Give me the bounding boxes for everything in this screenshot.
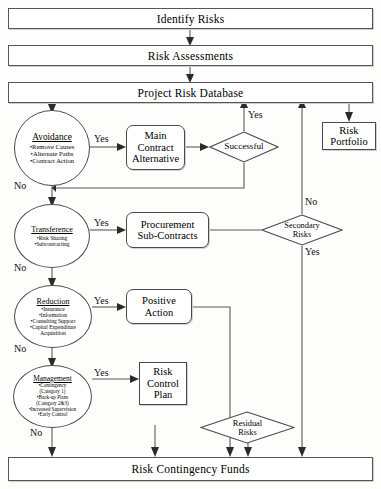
flowchart-canvas: Identify Risks Risk Assessments Project … bbox=[0, 0, 381, 489]
avoidance-bullet-3: •Contract Action bbox=[30, 157, 74, 164]
avoidance-yes-label: Yes bbox=[94, 134, 109, 144]
decision-residual-risks[interactable]: Residual Risks bbox=[200, 411, 295, 444]
transference-bullet-2: •Subcontracting bbox=[34, 241, 69, 247]
residual-risks-line-1: Residual bbox=[233, 419, 262, 428]
reduction-no-label: No bbox=[14, 344, 26, 354]
successful-label: Successful bbox=[224, 142, 263, 152]
secondary-risks-yes-label: Yes bbox=[305, 247, 320, 257]
residual-risks-label: Residual Risks bbox=[233, 419, 262, 437]
reduction-yes-label: Yes bbox=[94, 296, 109, 306]
identify-risks-label: Identify Risks bbox=[157, 13, 225, 25]
residual-risks-line-2: Risks bbox=[233, 428, 262, 437]
node-identify-risks[interactable]: Identify Risks bbox=[8, 8, 373, 29]
avoidance-no-label: No bbox=[14, 181, 26, 191]
transference-no-label: No bbox=[14, 263, 26, 273]
risk-assessments-label: Risk Assessments bbox=[148, 50, 233, 62]
decision-successful[interactable]: Successful bbox=[209, 131, 279, 163]
node-main-contract-alternative[interactable]: Main Contract Alternative bbox=[126, 125, 185, 170]
avoidance-bullet-2: •Alternate Paths bbox=[31, 150, 74, 157]
risk-control-plan-line-1: Risk bbox=[153, 366, 172, 378]
risk-portfolio-line-2: Portfolio bbox=[330, 136, 367, 148]
secondary-risks-no-label: No bbox=[305, 197, 317, 207]
secondary-risks-line-2: Risks bbox=[284, 230, 319, 239]
procurement-line-2: Sub-Contracts bbox=[137, 230, 197, 242]
project-risk-database-label: Project Risk Database bbox=[138, 87, 244, 99]
node-risk-control-plan[interactable]: Risk Control Plan bbox=[139, 362, 187, 405]
management-yes-label: Yes bbox=[94, 368, 109, 378]
management-bullet-6: •Early Control bbox=[38, 412, 68, 418]
secondary-risks-label: Secondary Risks bbox=[284, 221, 319, 239]
node-procurement-sub-contracts[interactable]: Procurement Sub-Contracts bbox=[126, 212, 209, 248]
risk-control-plan-line-2: Control bbox=[147, 378, 179, 390]
transference-heading: Transference bbox=[31, 225, 72, 234]
secondary-risks-line-1: Secondary bbox=[284, 221, 319, 230]
positive-action-line-2: Action bbox=[145, 307, 174, 319]
transference-yes-label: Yes bbox=[94, 218, 109, 228]
node-transference[interactable]: Transference •Risk Sharing •Subcontracti… bbox=[14, 204, 90, 268]
main-contract-alternative-line-2: Contract bbox=[137, 142, 173, 154]
reduction-bullet-5: Acquisition bbox=[40, 330, 66, 336]
reduction-heading: Reduction bbox=[37, 297, 70, 306]
successful-yes-label: Yes bbox=[248, 110, 263, 120]
risk-control-plan-line-3: Plan bbox=[154, 389, 173, 401]
procurement-line-1: Procurement bbox=[141, 219, 195, 231]
node-avoidance[interactable]: Avoidance •Remove Causes •Alternate Path… bbox=[14, 110, 90, 186]
decision-secondary-risks[interactable]: Secondary Risks bbox=[261, 214, 343, 246]
positive-action-line-1: Positive bbox=[142, 295, 176, 307]
main-contract-alternative-line-3: Alternative bbox=[132, 153, 179, 165]
node-project-risk-database[interactable]: Project Risk Database bbox=[8, 82, 373, 103]
node-management[interactable]: Management •Contingency (Category 1) •Ba… bbox=[13, 365, 92, 428]
risk-portfolio-line-1: Risk bbox=[339, 125, 358, 137]
avoidance-bullet-1: •Remove Causes bbox=[30, 143, 75, 150]
node-positive-action[interactable]: Positive Action bbox=[126, 289, 192, 324]
node-risk-assessments[interactable]: Risk Assessments bbox=[8, 45, 373, 66]
avoidance-heading: Avoidance bbox=[32, 132, 72, 142]
node-risk-contingency-funds[interactable]: Risk Contingency Funds bbox=[8, 457, 373, 481]
main-contract-alternative-line-1: Main bbox=[144, 130, 166, 142]
management-no-label: No bbox=[30, 428, 42, 438]
node-reduction[interactable]: Reduction •Insurance •Information •Consu… bbox=[14, 285, 92, 348]
risk-contingency-funds-label: Risk Contingency Funds bbox=[131, 463, 249, 475]
node-risk-portfolio[interactable]: Risk Portfolio bbox=[322, 122, 376, 150]
